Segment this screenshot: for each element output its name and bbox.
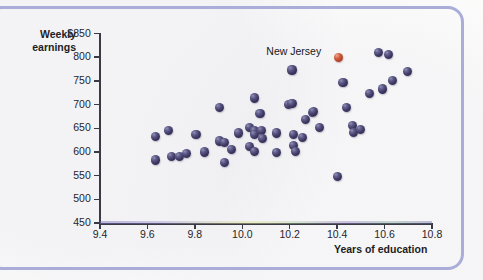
data-point [151,155,160,164]
data-point [182,149,191,158]
data-point [301,115,310,124]
baseline-color-tint [100,221,432,224]
data-point [191,130,200,139]
x-tick-label: 10.6 [365,228,405,240]
data-point [250,93,259,102]
y-tick-label: 600 [45,145,91,157]
data-point [250,147,259,156]
data-point [258,134,267,143]
data-point [378,84,387,93]
data-point [365,89,374,98]
plot-area: $850800750700650600550500450 9.49.69.810… [0,0,483,280]
data-point [227,145,236,154]
x-tick-label: 10.8 [412,228,452,240]
x-tick-label: 9.6 [127,228,167,240]
annotation-new-jersey: New Jersey [266,45,321,57]
data-point [272,148,281,157]
y-tick-mark [94,128,99,129]
data-point [374,48,383,57]
x-tick-label: 10.4 [317,228,357,240]
x-tick-label: 9.8 [175,228,215,240]
y-tick-mark [94,33,99,34]
x-tick-label: 10.0 [222,228,262,240]
data-point [215,103,224,112]
x-tick-label: 10.2 [270,228,310,240]
x-axis-title: Years of education [334,243,427,255]
data-point [356,125,365,134]
data-point-highlighted [334,53,343,62]
data-point [255,109,264,118]
data-point [309,107,318,116]
y-tick-label: 450 [45,216,91,228]
y-tick-mark [94,80,99,81]
y-tick-label: 650 [45,121,91,133]
figure-container: Weekly earnings $85080075070065060055050… [0,0,483,280]
y-tick-mark [94,175,99,176]
y-tick-label: 550 [45,169,91,181]
data-point [388,76,397,85]
data-point [342,103,351,112]
data-point [287,65,296,74]
y-tick-label: 500 [45,192,91,204]
y-tick-mark [94,151,99,152]
y-tick-mark [94,222,99,223]
y-tick-label: 700 [45,98,91,110]
data-point [151,132,160,141]
y-tick-mark [94,199,99,200]
y-tick-label: 800 [45,50,91,62]
data-point [234,128,243,137]
data-point [164,126,173,135]
x-tick-label: 9.4 [80,228,120,240]
y-tick-label: 750 [45,74,91,86]
data-point [289,130,298,139]
y-tick-mark [94,104,99,105]
data-point [220,158,229,167]
y-axis-line [99,33,101,224]
data-point [333,172,342,181]
data-point [298,133,307,142]
data-point [384,50,393,59]
data-point [338,78,347,87]
data-point [315,123,324,132]
data-point [291,147,300,156]
data-point [403,67,412,76]
y-tick-label: $850 [45,27,91,39]
y-tick-mark [94,56,99,57]
data-point [200,147,209,156]
data-point [272,128,281,137]
data-point [287,99,296,108]
